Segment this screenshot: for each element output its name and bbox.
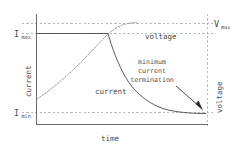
annotation-line-2: current [138, 67, 166, 75]
y-tick-vmax-symbol: V [214, 19, 219, 29]
annotation-line-1: minimum [138, 58, 166, 66]
series-label-voltage: voltage [145, 32, 177, 41]
annotation-line-3: termination [130, 76, 174, 84]
annotation-minimum-current-termination: minimum current termination [130, 58, 203, 111]
y-tick-vmax: V max [214, 19, 230, 30]
y-axis-left-title: current [24, 65, 33, 97]
annotation-arrow-line [176, 86, 199, 106]
charging-curve-figure: I max I min V max current voltage time v… [0, 0, 239, 148]
y-tick-imin-subscript: min [22, 113, 31, 119]
x-axis-title: time [101, 134, 120, 143]
y-axis-right-title: voltage [215, 81, 224, 113]
y-tick-imax-symbol: I [14, 29, 19, 39]
series-label-current: current [95, 87, 127, 96]
y-tick-vmax-subscript: max [221, 24, 230, 30]
current-curve [37, 34, 206, 114]
chart-canvas: I max I min V max current voltage time v… [0, 0, 239, 148]
y-tick-imax-subscript: max [22, 34, 31, 40]
y-tick-imin: I min [14, 108, 31, 119]
y-tick-imax: I max [14, 29, 31, 40]
y-tick-imin-symbol: I [14, 108, 19, 118]
annotation-arrow-head [196, 101, 204, 111]
